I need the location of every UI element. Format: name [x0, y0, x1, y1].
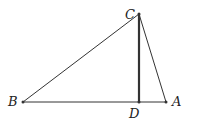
point-D — [138, 101, 141, 104]
triangle-diagram: B C D A — [0, 0, 221, 123]
point-C — [138, 13, 141, 16]
label-D: D — [128, 106, 140, 121]
label-A: A — [171, 94, 181, 109]
point-B — [22, 101, 25, 104]
point-A — [165, 101, 168, 104]
segment-CA — [139, 14, 166, 102]
label-C: C — [125, 7, 135, 22]
label-B: B — [7, 94, 18, 109]
segment-BC — [23, 14, 139, 102]
